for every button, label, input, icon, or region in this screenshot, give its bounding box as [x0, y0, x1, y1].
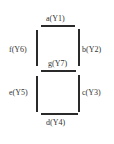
segment-a [41, 25, 75, 27]
label-e: e(Y5) [9, 88, 28, 97]
label-g: g(Y7) [48, 59, 67, 68]
label-a: a(Y1) [46, 14, 65, 23]
segment-f [36, 30, 38, 66]
segment-c [78, 75, 80, 112]
segment-b [78, 29, 80, 66]
segment-d [41, 113, 78, 115]
segment-g [41, 70, 76, 72]
label-b: b(Y2) [82, 45, 101, 54]
label-d: d(Y4) [46, 118, 65, 127]
label-c: c(Y3) [82, 88, 101, 97]
label-f: f(Y6) [9, 45, 27, 54]
segment-e [36, 76, 38, 112]
